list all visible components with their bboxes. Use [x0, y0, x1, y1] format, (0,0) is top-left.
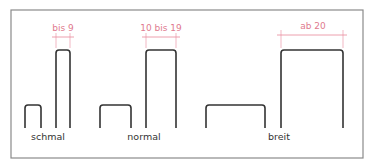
- breit-dimension-text: ab 20: [300, 21, 326, 31]
- normal-dimension-text: 10 bis 19: [140, 23, 182, 33]
- schmal-tall-profile: [56, 50, 70, 128]
- group-schmal: bis 9 schmal: [25, 23, 74, 142]
- normal-tall-profile: [146, 50, 176, 128]
- schmal-low-profile: [25, 105, 41, 128]
- normal-dimension-line: [142, 33, 180, 48]
- normal-low-profile: [100, 105, 131, 128]
- breit-dimension-line: [277, 30, 347, 48]
- breit-low-profile: [206, 105, 265, 128]
- group-breit: ab 20 breit: [206, 21, 347, 142]
- schmal-label: schmal: [31, 131, 65, 142]
- normal-label: normal: [127, 131, 160, 142]
- group-normal: 10 bis 19 normal: [100, 23, 182, 142]
- breit-tall-profile: [281, 50, 343, 128]
- schmal-dimension-line: [52, 33, 74, 48]
- schmal-dimension-text: bis 9: [52, 23, 74, 33]
- breit-label: breit: [268, 131, 290, 142]
- width-classification-diagram: bis 9 schmal 10 bis 19 normal ab 20 brei…: [0, 0, 372, 167]
